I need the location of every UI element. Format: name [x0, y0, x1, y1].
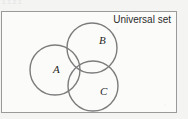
set-label-c: C	[100, 85, 108, 97]
set-circle-c	[68, 61, 118, 111]
set-label-b: B	[99, 34, 106, 46]
set-label-a: A	[52, 63, 60, 75]
venn-diagram-figure: 1.1.2.1 Universal set A B C	[0, 0, 188, 119]
set-circle-b	[67, 23, 117, 73]
venn-circles-svg: A B C	[0, 0, 188, 119]
